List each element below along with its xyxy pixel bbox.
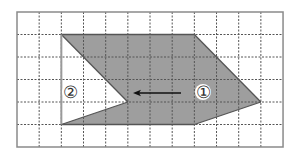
grid <box>17 12 283 147</box>
translation-figure: ② ① <box>0 0 300 159</box>
shape-1-label: ① <box>196 82 211 102</box>
label-shape-2: ② <box>62 82 78 102</box>
shape-2-label: ② <box>63 82 78 102</box>
label-shape-1: ① <box>195 82 211 102</box>
